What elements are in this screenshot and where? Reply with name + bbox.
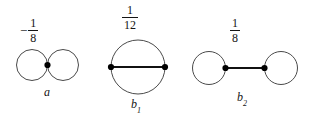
- loop-circle-left-a: [17, 50, 48, 81]
- loop-circle-left-b2: [193, 52, 226, 85]
- diagram-name-b1-subscript: 1: [137, 106, 141, 115]
- loop-circle-right-b2: [265, 52, 298, 85]
- diagram-name-a-text: a: [44, 85, 50, 99]
- diagram-name-b2: b2: [237, 90, 247, 106]
- figure-canvas: − 1 8 a 1 12: [0, 0, 309, 119]
- diagram-a: − 1 8 a: [0, 0, 95, 119]
- diagram-b1: 1 12 b1: [95, 0, 185, 119]
- diagram-name-a: a: [44, 85, 50, 100]
- vertex-dot-b2-right: [261, 65, 267, 71]
- diagram-name-b2-subscript: 2: [243, 99, 247, 108]
- vertex-dot-b1-right: [162, 64, 168, 70]
- diagram-name-b1: b1: [131, 97, 141, 113]
- vertex-dot-b1-left: [108, 64, 114, 70]
- vertex-dot-b2-left: [222, 65, 228, 71]
- graph-a-svg: [0, 0, 95, 119]
- graph-b2-svg: [185, 0, 309, 119]
- vertex-dot-a: [44, 62, 50, 68]
- loop-circle-right-a: [48, 50, 79, 81]
- diagram-b2: 1 8 b2: [185, 0, 309, 119]
